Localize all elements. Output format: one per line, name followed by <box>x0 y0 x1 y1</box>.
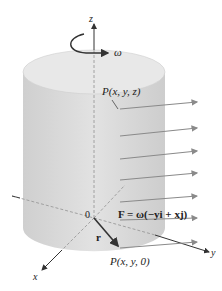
diagram-canvas <box>0 0 222 291</box>
omega-label: ω <box>114 47 122 58</box>
z-axis-label: z <box>89 14 93 24</box>
y-axis-label: y <box>211 248 215 258</box>
field-equation-label: F = ω(−yi + xj) <box>118 209 187 220</box>
r-vector-label: r <box>96 232 101 243</box>
origin-label: 0 <box>85 210 90 220</box>
x-axis-label: x <box>33 272 37 282</box>
x-axis <box>42 250 62 270</box>
point-xy0-label: P(x, y, 0) <box>110 256 150 267</box>
neg-y-axis <box>12 196 20 198</box>
point-xyz-label: P(x, y, z) <box>102 86 140 97</box>
